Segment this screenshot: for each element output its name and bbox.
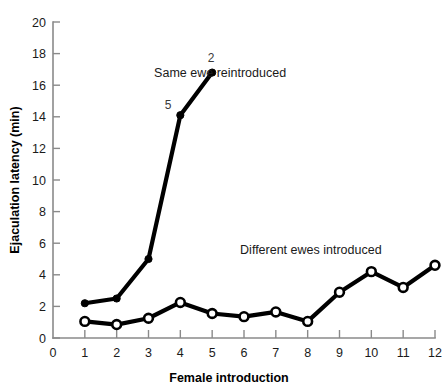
y-axis-tick-label: 16 bbox=[32, 79, 46, 93]
y-axis-tick-label: 0 bbox=[39, 332, 46, 346]
x-axis-tick-label: 12 bbox=[428, 346, 442, 360]
ejaculation-latency-line-chart: 02468101214161820 0123456789101112 52 Sa… bbox=[0, 0, 448, 390]
data-point-open bbox=[271, 308, 280, 317]
chart-background bbox=[0, 0, 448, 390]
x-axis-tick-label: 3 bbox=[145, 346, 152, 360]
series-annotation: Same ewe reintroduced bbox=[154, 66, 286, 80]
y-axis-tick-label: 10 bbox=[32, 174, 46, 188]
data-point-open bbox=[80, 317, 89, 326]
x-axis-tick-label: 11 bbox=[397, 346, 410, 360]
x-axis-tick-label: 1 bbox=[81, 346, 88, 360]
data-point-open bbox=[367, 267, 376, 276]
x-axis-tick-label: 0 bbox=[50, 346, 57, 360]
data-point-label: 5 bbox=[165, 98, 172, 112]
data-point-open bbox=[208, 309, 217, 318]
data-point-open bbox=[240, 312, 249, 321]
x-axis-tick-label: 9 bbox=[336, 346, 343, 360]
y-axis-tick-label: 2 bbox=[39, 300, 46, 314]
x-axis-tick-label: 6 bbox=[241, 346, 248, 360]
y-axis-title: Ejaculation latency (min) bbox=[8, 106, 22, 253]
x-axis-tick-label: 5 bbox=[209, 346, 216, 360]
data-point-open bbox=[303, 317, 312, 326]
x-axis-tick-label: 7 bbox=[272, 346, 279, 360]
y-axis-tick-label: 14 bbox=[32, 110, 46, 124]
data-point-open bbox=[176, 298, 185, 307]
data-point-label: 2 bbox=[208, 51, 215, 65]
y-axis-tick-label: 6 bbox=[39, 237, 46, 251]
y-axis-tick-label: 18 bbox=[32, 47, 46, 61]
y-axis-tick-label: 4 bbox=[39, 268, 46, 282]
x-axis-tick-label: 2 bbox=[113, 346, 120, 360]
data-point-open bbox=[144, 314, 153, 323]
data-point-open bbox=[112, 320, 121, 329]
y-axis-tick-label: 8 bbox=[39, 205, 46, 219]
data-point-filled bbox=[177, 112, 184, 119]
data-point-filled bbox=[145, 255, 152, 262]
x-axis-title: Female introduction bbox=[169, 371, 288, 385]
data-point-filled bbox=[81, 300, 88, 307]
data-point-open bbox=[335, 288, 344, 297]
y-axis-tick-label: 20 bbox=[32, 16, 46, 30]
data-point-open bbox=[431, 261, 440, 270]
x-axis-tick-label: 8 bbox=[304, 346, 311, 360]
x-axis-tick-label: 10 bbox=[364, 346, 378, 360]
chart-figure: 02468101214161820 0123456789101112 52 Sa… bbox=[0, 0, 448, 390]
x-axis-tick-label: 4 bbox=[177, 346, 184, 360]
data-point-filled bbox=[113, 295, 120, 302]
data-point-open bbox=[399, 283, 408, 292]
series-annotation: Different ewes introduced bbox=[240, 243, 382, 257]
y-axis-tick-label: 12 bbox=[32, 142, 46, 156]
